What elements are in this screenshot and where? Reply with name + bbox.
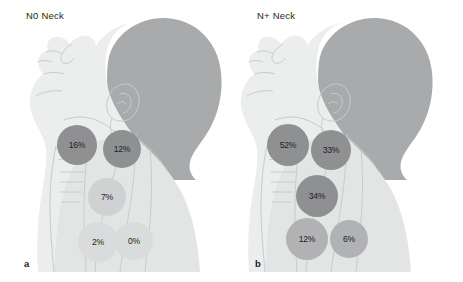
node-a-1-label: 12%	[114, 144, 131, 154]
panel-b-title: N+ Neck	[257, 10, 295, 21]
node-a-0-label: 16%	[69, 140, 86, 150]
figure-canvas: N0 Neck a 16% 12% 7% 2% 0%	[0, 0, 463, 282]
node-b-0[interactable]: 52%	[267, 124, 309, 166]
panel-a-title: N0 Neck	[26, 10, 64, 21]
node-a-4-label: 0%	[128, 236, 140, 246]
node-b-4[interactable]: 6%	[330, 220, 368, 258]
node-b-1-label: 33%	[323, 145, 340, 155]
panel-b: N+ Neck b 52% 33% 34% 12% 6%	[231, 0, 462, 282]
node-a-3[interactable]: 2%	[78, 222, 118, 262]
panel-a-letter: a	[24, 258, 29, 269]
node-b-4-label: 6%	[343, 234, 355, 244]
node-a-4[interactable]: 0%	[115, 222, 153, 260]
panel-b-letter: b	[255, 258, 261, 269]
node-b-2[interactable]: 34%	[296, 175, 338, 217]
node-b-0-label: 52%	[280, 140, 297, 150]
node-b-2-label: 34%	[309, 191, 326, 201]
node-b-3-label: 12%	[299, 234, 316, 244]
node-b-3[interactable]: 12%	[286, 218, 328, 260]
node-b-1[interactable]: 33%	[311, 130, 351, 170]
node-a-0[interactable]: 16%	[57, 125, 97, 165]
panel-a: N0 Neck a 16% 12% 7% 2% 0%	[0, 0, 231, 282]
node-a-1[interactable]: 12%	[103, 130, 141, 168]
node-a-3-label: 2%	[92, 237, 104, 247]
node-a-2[interactable]: 7%	[88, 178, 126, 216]
node-a-2-label: 7%	[101, 192, 113, 202]
